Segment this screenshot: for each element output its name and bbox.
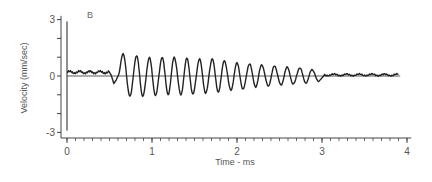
x-axis-title: Time - ms <box>215 157 255 167</box>
velocity-chart: -30301234 B Velocity (mm/sec) Time - ms <box>0 0 432 182</box>
x-tick-label: 4 <box>404 146 410 157</box>
x-tick-label: 3 <box>319 146 325 157</box>
x-tick-label: 1 <box>149 146 155 157</box>
y-tick-label: -3 <box>46 127 55 138</box>
y-tick-label: 0 <box>49 71 55 82</box>
panel-label: B <box>87 10 93 20</box>
y-tick-label: 3 <box>49 14 55 25</box>
velocity-line <box>67 54 399 97</box>
y-axis-title: Velocity (mm/sec) <box>19 42 29 113</box>
velocity-trace <box>67 54 399 97</box>
x-tick-label: 2 <box>234 146 240 157</box>
x-tick-label: 0 <box>64 146 70 157</box>
